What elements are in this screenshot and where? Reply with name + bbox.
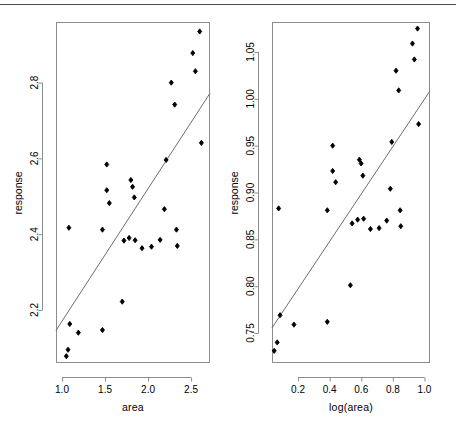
data-point	[361, 173, 365, 178]
data-point	[277, 206, 281, 211]
data-point	[398, 208, 402, 213]
data-point	[66, 347, 70, 352]
data-point	[199, 140, 203, 145]
data-point	[174, 227, 178, 232]
figure-canvas: 1.01.52.02.52.22.42.62.8 response area 0…	[0, 0, 456, 422]
data-point	[127, 235, 131, 240]
data-point	[105, 162, 109, 167]
y-tick-label: 0.95	[245, 135, 256, 155]
data-point	[385, 218, 389, 223]
data-point	[350, 221, 354, 226]
data-point	[173, 102, 177, 107]
y-axis-title-left-wrap: response	[10, 22, 26, 363]
y-axis-title-left: response	[12, 171, 24, 214]
data-point	[158, 237, 162, 242]
data-point	[348, 283, 352, 288]
x-tick-label: 1.5	[98, 384, 112, 395]
data-point	[325, 208, 329, 213]
data-point	[390, 139, 394, 144]
data-point	[68, 321, 72, 326]
data-point	[129, 177, 133, 182]
data-point	[122, 238, 126, 243]
y-tick-label: 2.8	[29, 75, 40, 89]
regression-line	[272, 91, 430, 328]
data-point	[64, 354, 68, 359]
data-point	[394, 68, 398, 73]
scatter-panel-area: 1.01.52.02.52.22.42.62.8 response area	[0, 0, 228, 422]
x-tick-label: 0.6	[354, 384, 368, 395]
data-point	[67, 225, 71, 230]
data-point	[368, 226, 372, 231]
x-tick-label: 0.4	[323, 384, 337, 395]
data-point	[149, 244, 153, 249]
x-tick-label: 0.8	[386, 384, 400, 395]
x-tick-label: 2.0	[141, 384, 155, 395]
data-point	[275, 340, 279, 345]
scatter-panel-log-area: 0.20.40.60.81.00.750.800.850.900.951.001…	[228, 0, 456, 422]
data-point	[198, 29, 202, 34]
data-point	[410, 41, 414, 46]
data-point	[140, 246, 144, 251]
plot-surface-right: 0.20.40.60.81.00.750.800.850.900.951.001…	[228, 0, 456, 422]
data-point	[175, 243, 179, 248]
x-tick-label: 0.2	[291, 384, 305, 395]
data-point	[193, 69, 197, 74]
data-point	[417, 122, 421, 127]
plot-surface-left: 1.01.52.02.52.22.42.62.8	[0, 0, 228, 422]
data-point	[325, 319, 329, 324]
data-point	[397, 88, 401, 93]
x-axis-title-right: log(area)	[272, 401, 430, 413]
data-point	[131, 184, 135, 189]
y-axis-title-right-wrap: response	[226, 22, 242, 363]
data-point	[191, 50, 195, 55]
x-tick-label: 1.0	[55, 384, 69, 395]
y-tick-label: 0.80	[245, 276, 256, 296]
data-point	[169, 80, 173, 85]
data-point	[100, 327, 104, 332]
regression-line	[56, 93, 210, 330]
data-point	[362, 216, 366, 221]
y-tick-label: 0.85	[245, 229, 256, 249]
data-point	[292, 322, 296, 327]
plot-frame	[273, 23, 430, 363]
x-tick-label: 2.5	[184, 384, 198, 395]
data-point	[132, 195, 136, 200]
data-point	[412, 57, 416, 62]
data-point	[334, 180, 338, 185]
data-point	[107, 201, 111, 206]
data-point	[399, 224, 403, 229]
data-point	[331, 168, 335, 173]
data-point	[105, 188, 109, 193]
x-tick-label: 1.0	[418, 384, 432, 395]
data-point	[388, 186, 392, 191]
data-point	[416, 26, 420, 31]
y-tick-label: 2.6	[29, 151, 40, 165]
y-tick-label: 1.05	[245, 42, 256, 62]
data-point	[76, 330, 80, 335]
data-point	[120, 299, 124, 304]
x-axis-title-left: area	[56, 401, 210, 413]
data-point	[356, 217, 360, 222]
y-tick-label: 0.90	[245, 182, 256, 202]
y-tick-label: 2.4	[29, 227, 40, 241]
data-point	[133, 238, 137, 243]
y-tick-label: 1.00	[245, 89, 256, 109]
y-tick-label: 2.2	[29, 303, 40, 317]
y-tick-label: 0.75	[245, 323, 256, 343]
plot-frame	[57, 23, 210, 363]
y-axis-title-right: response	[228, 171, 240, 214]
data-point	[377, 225, 381, 230]
data-point	[331, 143, 335, 148]
data-point	[162, 207, 166, 212]
data-point	[100, 227, 104, 232]
